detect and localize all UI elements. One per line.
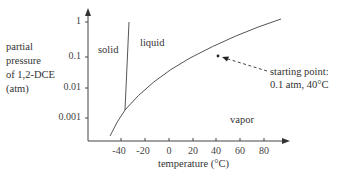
x-tick-label: 80 [251, 145, 277, 156]
solid-liquid-boundary [125, 22, 129, 110]
x-tick-label: -20 [130, 145, 156, 156]
y-axis-label-line: of 1,2-DCE [6, 68, 55, 82]
annotation-line: 0.1 atm, 40°C [270, 78, 329, 91]
x-tick-label: 60 [227, 145, 253, 156]
region-label-solid: solid [98, 44, 118, 56]
vapor-pressure-curve [110, 19, 281, 136]
x-axis-arrow-icon [282, 138, 290, 144]
y-axis-arrow-icon [85, 8, 91, 16]
annotation-line: starting point: [270, 65, 329, 78]
starting-point-marker [217, 55, 220, 58]
annotation-arrowhead-icon [222, 57, 229, 62]
starting-point-annotation: starting point: 0.1 atm, 40°C [270, 65, 329, 91]
annotation-dashed-arrow [228, 59, 267, 71]
y-tick-label: 0.01 [41, 81, 81, 92]
y-tick-label: 0.1 [41, 50, 81, 61]
x-tick-label: -40 [106, 145, 132, 156]
y-tick-label: 1 [41, 15, 81, 26]
y-tick-label: 0.001 [41, 111, 81, 122]
x-tick-label: 40 [203, 145, 229, 156]
region-label-liquid: liquid [140, 37, 165, 49]
x-tick-label: 0 [156, 145, 182, 156]
region-label-vapor: vapor [230, 114, 254, 126]
x-axis-label: temperature (°C) [158, 158, 229, 170]
